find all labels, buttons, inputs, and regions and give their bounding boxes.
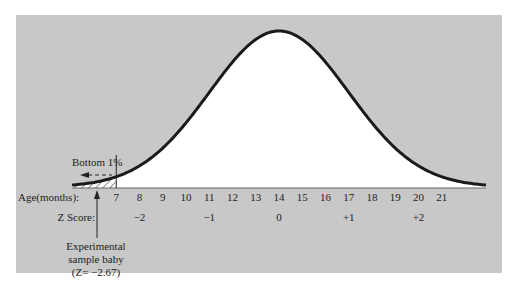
age-tick-12: 12 (227, 191, 238, 203)
age-tick-13: 13 (250, 191, 262, 203)
age-tick-8: 8 (137, 191, 143, 203)
bottom-1-percent-label: Bottom 1% (72, 156, 122, 168)
z-tick: 0 (276, 211, 282, 223)
age-tick-10: 10 (181, 191, 193, 203)
age-tick-9: 9 (160, 191, 166, 203)
age-tick-15: 15 (297, 191, 309, 203)
left-dashed-arrow-icon (80, 172, 112, 178)
age-tick-14: 14 (274, 191, 286, 203)
z-tick: −1 (203, 211, 215, 223)
age-tick-7: 7 (114, 191, 120, 203)
age-tick-17: 17 (343, 191, 355, 203)
z-tick: −2 (134, 211, 146, 223)
annotation-line-3: (Z= −2.67) (72, 266, 121, 279)
age-axis-label: Age(months): (18, 191, 79, 204)
age-tick-11: 11 (204, 191, 215, 203)
age-tick-16: 16 (320, 191, 332, 203)
annotation-line-1: Experimental (66, 240, 125, 252)
z-tick: +1 (343, 211, 355, 223)
annotation-line-2: sample baby (68, 253, 124, 265)
normal-distribution-figure: Bottom 1% Age(months): Z Score: 78910111… (0, 0, 515, 285)
age-tick-labels: 789101112131415161718192021 (114, 191, 448, 203)
z-score-tick-labels: −2−10+1+2 (134, 211, 425, 223)
curve-area (72, 31, 486, 188)
age-tick-18: 18 (367, 191, 379, 203)
age-tick-20: 20 (413, 191, 425, 203)
age-tick-19: 19 (390, 191, 402, 203)
z-score-label: Z Score: (57, 211, 95, 223)
age-tick-21: 21 (436, 191, 447, 203)
z-tick: +2 (413, 211, 425, 223)
